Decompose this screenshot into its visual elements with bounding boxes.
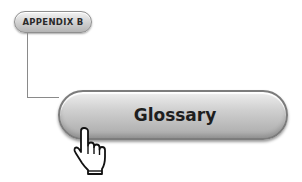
hand-pointer-icon — [73, 126, 107, 176]
connector-line-vertical — [27, 33, 28, 98]
appendix-b-label: APPENDIX B — [22, 17, 83, 27]
connector-line-horizontal — [27, 97, 59, 98]
glossary-button-label: Glossary — [134, 105, 217, 125]
appendix-b-tag: APPENDIX B — [14, 11, 92, 33]
